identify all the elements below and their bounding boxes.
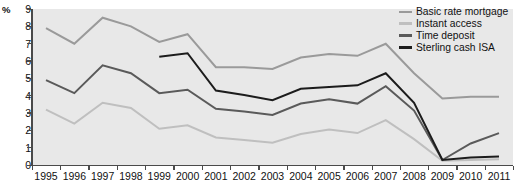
x-tick-2008: [400, 166, 401, 170]
legend-label: Instant access: [416, 18, 482, 29]
x-tick-2011: [485, 166, 486, 170]
y-tick-2: [27, 130, 31, 131]
legend-swatch-icon: [399, 46, 412, 49]
legend-swatch-icon: [399, 22, 412, 25]
legend-label: Sterling cash ISA: [416, 42, 495, 53]
legend-item-basic-rate-mortgage[interactable]: Basic rate mortgage: [399, 6, 517, 18]
series-line-time-deposit: [46, 65, 499, 160]
x-tick-2003: [258, 166, 259, 170]
x-tick-2006: [343, 166, 344, 170]
x-tick-2004: [287, 166, 288, 170]
x-tick-1996: [60, 166, 61, 170]
legend-item-time-deposit[interactable]: Time deposit: [399, 30, 517, 42]
x-tick-label-2011: 2011: [479, 170, 519, 182]
x-tick-2002: [230, 166, 231, 170]
legend-swatch-icon: [399, 11, 412, 14]
x-tick-2009: [428, 166, 429, 170]
legend-label: Time deposit: [416, 30, 475, 41]
y-tick-1: [27, 147, 31, 148]
x-tick-2000: [173, 166, 174, 170]
y-tick-0: [27, 165, 31, 166]
y-tick-9: [27, 8, 31, 9]
x-tick-1995: [32, 166, 33, 170]
legend-swatch-icon: [399, 34, 412, 37]
y-tick-5: [27, 78, 31, 79]
legend-label: Basic rate mortgage: [416, 6, 508, 17]
series-line-instant-access: [46, 103, 499, 161]
y-tick-7: [27, 43, 31, 44]
legend-item-instant-access[interactable]: Instant access: [399, 18, 517, 30]
x-tick-2007: [372, 166, 373, 170]
x-tick-2010: [456, 166, 457, 170]
y-tick-4: [27, 95, 31, 96]
x-tick-2001: [202, 166, 203, 170]
y-tick-3: [27, 112, 31, 113]
chart-legend: Basic rate mortgageInstant accessTime de…: [399, 6, 517, 54]
legend-item-sterling-cash-isa[interactable]: Sterling cash ISA: [399, 42, 517, 54]
chart-container: % 0123456789 Basic rate mortgageInstant …: [0, 0, 519, 187]
series-line-sterling-cash-isa: [159, 53, 499, 160]
y-tick-8: [27, 26, 31, 27]
x-tick-end: [513, 166, 514, 170]
y-tick-6: [27, 60, 31, 61]
x-tick-2005: [315, 166, 316, 170]
x-tick-1997: [88, 166, 89, 170]
x-tick-1999: [145, 166, 146, 170]
x-tick-1998: [117, 166, 118, 170]
